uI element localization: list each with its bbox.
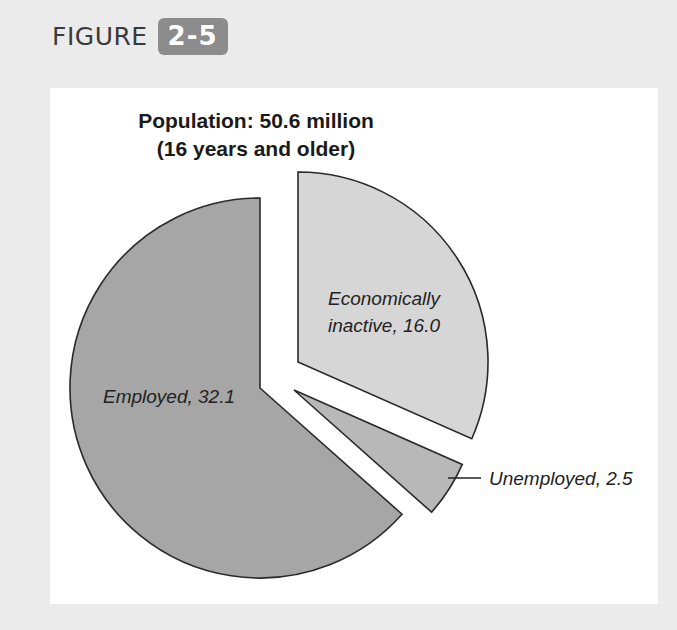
pie-chart: Population: 50.6 million (16 years and o… [0, 0, 677, 630]
label-unemployed: Unemployed, 2.5 [489, 468, 633, 489]
label-economically-inactive-line1: Economically [328, 288, 441, 309]
chart-subtitle: (16 years and older) [157, 137, 355, 160]
chart-title: Population: 50.6 million [138, 109, 374, 132]
label-economically-inactive-line2: inactive, 16.0 [328, 315, 440, 336]
label-employed: Employed, 32.1 [103, 386, 235, 407]
